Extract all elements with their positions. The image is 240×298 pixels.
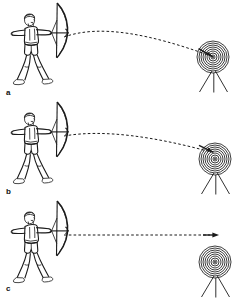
archery-trajectory-figure: a b c: [0, 0, 240, 298]
panel-label-c: c: [6, 284, 11, 293]
panel-label-b: b: [6, 187, 11, 196]
panel-label-a: a: [6, 88, 11, 97]
